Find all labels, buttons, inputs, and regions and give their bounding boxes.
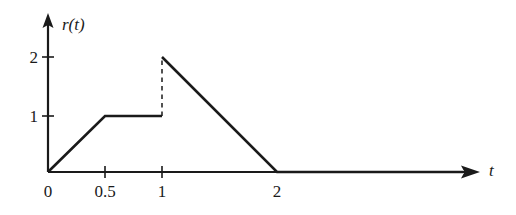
x-axis-label: t bbox=[489, 162, 494, 179]
x-tick-label-0: 0 bbox=[44, 183, 53, 200]
curve-segment-rise-and-plateau bbox=[48, 116, 162, 172]
x-tick-label-1: 1 bbox=[158, 183, 167, 200]
curve-segment-decay-and-zero bbox=[162, 57, 463, 172]
y-axis-label: r(t) bbox=[62, 16, 85, 33]
x-tick-label-0point5: 0.5 bbox=[94, 183, 115, 200]
y-tick-label-1: 1 bbox=[30, 108, 39, 125]
figure-canvas: r(t) t 1 2 0 0.5 1 2 bbox=[0, 0, 516, 215]
y-tick-label-2: 2 bbox=[30, 49, 39, 66]
x-tick-label-2: 2 bbox=[273, 183, 282, 200]
